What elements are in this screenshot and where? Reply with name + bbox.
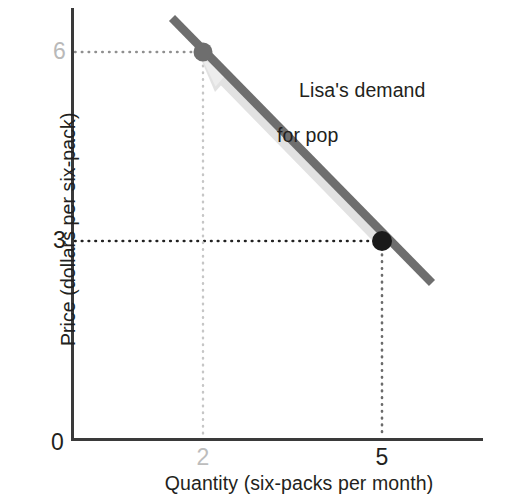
demand-curve-label-line1: Lisa's demand xyxy=(299,79,425,101)
y-tick-label-6: 6 xyxy=(46,38,66,65)
x-tick-label-2: 2 xyxy=(188,444,218,471)
data-point-5-3 xyxy=(372,231,392,251)
demand-curve-label: Lisa's demand for pop xyxy=(277,56,426,192)
x-tick-label-5: 5 xyxy=(367,444,397,471)
y-tick-label-3: 3 xyxy=(44,227,66,254)
x-axis-title: Quantity (six-packs per month) xyxy=(113,472,485,495)
data-point-2-6 xyxy=(194,43,213,62)
demand-curve-chart: Price (dollars per six-pack) Quantity (s… xyxy=(0,0,511,502)
origin-label: 0 xyxy=(42,429,64,456)
demand-curve-label-line2: for pop xyxy=(277,124,426,147)
